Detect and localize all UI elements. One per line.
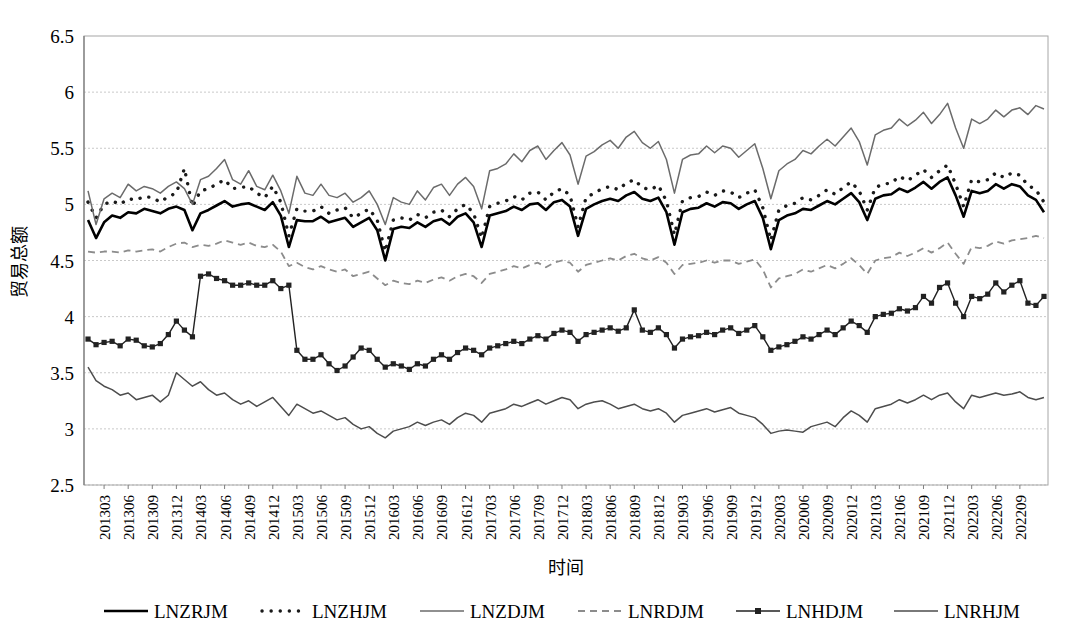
data-point-marker (190, 334, 195, 339)
data-point-marker (415, 361, 420, 366)
x-axis-tick-label: 201512 (362, 495, 378, 540)
data-point-marker (455, 350, 460, 355)
data-point-marker (551, 331, 556, 336)
data-point-marker (961, 314, 966, 319)
y-axis-tick-label: 3.5 (50, 363, 74, 384)
x-axis-tick-label: 201503 (290, 495, 306, 540)
data-point-marker (1017, 278, 1022, 283)
data-point-marker (262, 283, 267, 288)
data-point-marker (399, 363, 404, 368)
y-axis-tick-label: 5.5 (50, 138, 74, 159)
series-line-lnzrjm (88, 177, 1044, 260)
x-axis-tick-label: 201403 (193, 495, 209, 540)
data-point-marker (680, 336, 685, 341)
data-point-marker (198, 274, 203, 279)
data-point-marker (230, 283, 235, 288)
data-point-marker (857, 323, 862, 328)
y-axis-tick-label: 3 (65, 419, 75, 440)
data-point-marker (318, 352, 323, 357)
legend-item-lnrhjm: LNRHJM (894, 601, 1020, 622)
legend-label-lnhdjm: LNHDJM (786, 601, 863, 622)
data-point-marker (142, 343, 147, 348)
data-point-marker (447, 357, 452, 362)
legend-item-lnrdjm: LNRDJM (578, 601, 704, 622)
x-axis-tick-label: 201303 (97, 495, 113, 540)
legend: LNZRJMLNZHJMLNZDJMLNRDJMLNHDJMLNRHJM (104, 601, 1020, 622)
data-point-marker (656, 325, 661, 330)
legend-label-lnrdjm: LNRDJM (628, 601, 704, 622)
x-axis-tick-label: 202003 (772, 495, 788, 540)
y-axis-tick-label: 2.5 (50, 475, 74, 496)
x-axis-tick-label: 202206 (989, 495, 1005, 541)
data-point-marker (254, 283, 259, 288)
data-point-marker (174, 319, 179, 324)
data-point-marker (383, 365, 388, 370)
data-point-marker (479, 352, 484, 357)
data-point-marker (222, 278, 227, 283)
series-markers-lnhdjm (85, 271, 1046, 373)
data-point-marker (439, 352, 444, 357)
x-axis-tick-label: 201603 (386, 495, 402, 540)
data-point-marker (841, 325, 846, 330)
data-point-marker (696, 333, 701, 338)
series-group (85, 103, 1046, 438)
data-point-marker (1001, 289, 1006, 294)
data-point-marker (1009, 283, 1014, 288)
data-point-marker (158, 341, 163, 346)
x-axis-tick-label: 201309 (145, 495, 161, 540)
data-point-marker (310, 357, 315, 362)
data-point-marker (664, 332, 669, 337)
data-point-marker (334, 368, 339, 373)
x-axis-tick-label: 202109 (916, 495, 932, 540)
x-axis-tick-label: 202103 (868, 495, 884, 540)
data-point-marker (527, 336, 532, 341)
data-point-marker (93, 342, 98, 347)
x-axis-tick-label: 201906 (700, 495, 716, 541)
data-point-marker (937, 285, 942, 290)
chart-container: 6.565.554.543.532.5201303201306201309201… (0, 0, 1068, 637)
data-point-marker (85, 336, 90, 341)
data-point-marker (849, 319, 854, 324)
data-point-marker (977, 296, 982, 301)
data-point-marker (768, 348, 773, 353)
x-axis-tick-label: 201709 (531, 495, 547, 540)
data-point-marker (592, 330, 597, 335)
data-point-marker (559, 328, 564, 333)
x-axis-tick-label: 202012 (844, 495, 860, 540)
data-point-marker (953, 301, 958, 306)
data-point-marker (913, 305, 918, 310)
data-point-marker (929, 301, 934, 306)
data-point-marker (567, 330, 572, 335)
legend-item-lnzdjm: LNZDJM (420, 601, 545, 622)
data-point-marker (294, 348, 299, 353)
x-axis-tick-label: 201409 (242, 495, 258, 540)
data-point-marker (367, 348, 372, 353)
x-axis-tick-label: 201312 (169, 495, 185, 540)
x-axis-tick-label: 201703 (483, 495, 499, 540)
x-axis-tick-label: 201912 (748, 495, 764, 540)
data-point-marker (816, 332, 821, 337)
y-axis-tick-label: 6.5 (50, 26, 74, 47)
data-point-marker (969, 294, 974, 299)
y-axis-tick-label: 4.5 (50, 251, 74, 272)
data-point-marker (945, 280, 950, 285)
data-point-marker (583, 332, 588, 337)
data-point-marker (118, 343, 123, 348)
data-point-marker (672, 345, 677, 350)
legend-marker-square (755, 608, 761, 614)
data-point-marker (278, 286, 283, 291)
legend-label-lnrhjm: LNRHJM (944, 601, 1020, 622)
x-axis-tick-label: 202006 (796, 495, 812, 541)
x-axis-ticks-group: 2013032013062013092013122014032014062014… (97, 485, 1029, 540)
data-point-marker (238, 283, 243, 288)
data-point-marker (1033, 303, 1038, 308)
legend-item-lnhdjm: LNHDJM (736, 601, 863, 622)
x-axis-tick-label: 201606 (410, 495, 426, 541)
x-axis-tick-label: 201509 (338, 495, 354, 540)
data-point-marker (270, 278, 275, 283)
data-point-marker (784, 342, 789, 347)
gridlines-group (84, 92, 1048, 485)
data-point-marker (543, 336, 548, 341)
data-point-marker (824, 328, 829, 333)
data-point-marker (752, 323, 757, 328)
